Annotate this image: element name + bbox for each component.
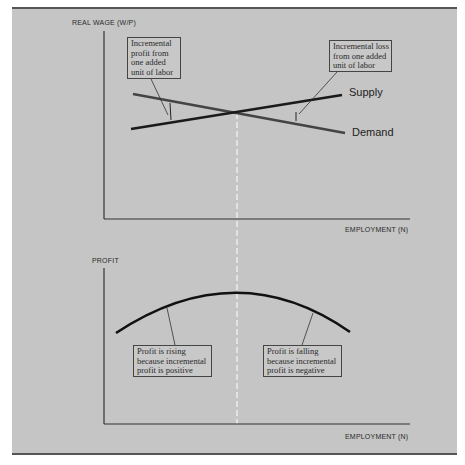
incremental-loss-annotation: Incremental loss from one added unit of … xyxy=(329,40,392,72)
annotation-line: unit of labor xyxy=(333,61,388,71)
annotation-line: profit is negative xyxy=(267,366,338,376)
real-wage-axis-label: REAL WAGE (W/P) xyxy=(72,19,136,26)
leader-line xyxy=(299,72,337,114)
profit-rising-annotation: Profit is rising because incremental pro… xyxy=(133,345,212,377)
annotation-line: unit of labor xyxy=(131,68,177,78)
demand-label: Demand xyxy=(352,126,394,138)
profit-falling-annotation: Profit is falling because incremental pr… xyxy=(263,345,342,377)
profit-curve xyxy=(116,293,350,333)
annotation-line: profit is positive xyxy=(137,366,208,376)
profit-axis-label: PROFIT xyxy=(92,257,119,264)
top-employment-axis-label: EMPLOYMENT (N) xyxy=(345,226,408,233)
bottom-employment-axis-label: EMPLOYMENT (N) xyxy=(345,433,408,440)
leader-line xyxy=(167,308,175,345)
incremental-profit-annotation: Incremental profit from one added unit o… xyxy=(127,37,181,79)
leader-line xyxy=(302,313,313,345)
incremental-profit-marker xyxy=(170,103,171,120)
supply-label: Supply xyxy=(349,86,383,98)
